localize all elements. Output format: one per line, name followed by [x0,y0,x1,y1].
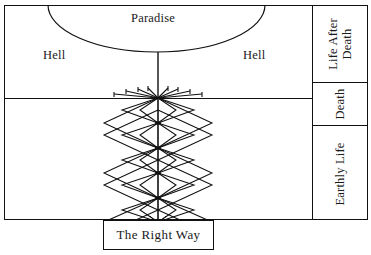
stage-label-life-after-death-line2: Death [340,29,354,60]
region-label-hell-right: Hell [243,48,265,63]
caption-text-the-right-way: The Right Way [116,227,200,243]
main-diagram-frame [4,5,313,220]
stage-cell-life-after-death: Life After Death [313,6,367,83]
region-label-hell-left: Hell [43,48,65,63]
stage-label-life-after-death-line1: Life After [326,18,340,70]
death-divider-line [4,98,313,99]
stage-label-life-after-death-wrap: Life After Death [326,17,354,71]
stage-cell-death: Death [313,83,367,126]
stage-label-death: Death [333,89,347,120]
region-label-paradise: Paradise [131,11,175,26]
stage-cell-earthly-life: Earthly Life [313,126,367,221]
diagram-canvas: Paradise Hell Hell Life After Death Deat… [0,0,371,255]
stage-panel: Life After Death Death Earthly Life [313,5,368,220]
stage-label-earthly-life: Earthly Life [333,142,347,205]
caption-box-the-right-way: The Right Way [103,220,214,250]
